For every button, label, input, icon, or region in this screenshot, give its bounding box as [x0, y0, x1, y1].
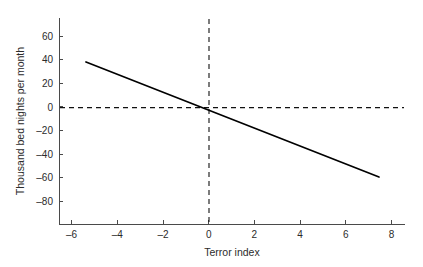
y-tick-label: 0 — [47, 102, 53, 113]
x-tick-label: –6 — [66, 229, 78, 240]
y-tick-label: 40 — [42, 54, 54, 65]
x-tick-label: 0 — [206, 229, 212, 240]
x-axis-title: Terror index — [204, 246, 260, 258]
chart-figure: 60 40 20 0 –20 –40 –60 –80 –6 –4 –2 0 2 … — [0, 0, 423, 267]
x-tick-label: 6 — [343, 229, 349, 240]
plot-background — [0, 0, 423, 267]
y-tick-label: 60 — [42, 31, 54, 42]
y-tick-label: –40 — [36, 149, 53, 160]
scatter-regression-plot: 60 40 20 0 –20 –40 –60 –80 –6 –4 –2 0 2 … — [0, 0, 423, 267]
y-axis-title: Thousand bed nights per month — [14, 47, 26, 195]
x-tick-label: 4 — [297, 229, 303, 240]
x-tick-label: 8 — [389, 229, 395, 240]
y-tick-label: –60 — [36, 172, 53, 183]
x-tick-label: –2 — [157, 229, 169, 240]
x-tick-label: –4 — [112, 229, 124, 240]
y-tick-label: –20 — [36, 125, 53, 136]
y-tick-label: –80 — [36, 196, 53, 207]
y-tick-label: 20 — [42, 78, 54, 89]
x-tick-label: 2 — [252, 229, 258, 240]
